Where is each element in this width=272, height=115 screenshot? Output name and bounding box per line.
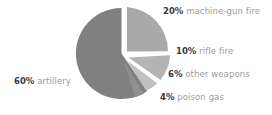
pie-label-machine-gun-fire: 20% machine-gun fire — [163, 6, 260, 16]
pie-label-rifle-fire: 10% rifle fire — [176, 46, 233, 56]
pie-chart-figure: 20% machine-gun fire 10% rifle fire 6% o… — [0, 0, 272, 115]
pie-label-other-weapons: 6% other weapons — [168, 69, 250, 79]
pie-slice-machine-gun-fire[interactable] — [127, 7, 168, 52]
pie-label-name: artillery — [37, 76, 71, 86]
pie-label-name: poison gas — [177, 92, 224, 102]
pie-chart-graphic — [0, 0, 272, 115]
pie-label-name: rifle fire — [199, 46, 233, 56]
pie-label-poison-gas: 4% poison gas — [160, 92, 224, 102]
pie-label-name: machine-gun fire — [186, 6, 260, 16]
pie-label-percent: 60% — [14, 76, 34, 86]
pie-label-artillery: 60% artillery — [14, 76, 71, 86]
pie-label-percent: 6% — [168, 69, 182, 79]
pie-label-percent: 10% — [176, 46, 196, 56]
pie-label-name: other weapons — [185, 69, 249, 79]
pie-label-percent: 4% — [160, 92, 174, 102]
pie-label-percent: 20% — [163, 6, 183, 16]
